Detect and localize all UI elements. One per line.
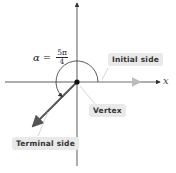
initial-side-label: Initial side: [108, 53, 163, 66]
x-axis-label: x: [163, 75, 169, 86]
equals-sign: =: [43, 52, 51, 63]
terminal-side-label: Terminal side: [12, 137, 79, 150]
alpha-symbol: α: [33, 52, 40, 63]
angle-fraction: 5π 4: [56, 49, 68, 66]
vertex-label: Vertex: [89, 104, 126, 117]
initial-side-leader: [102, 68, 108, 80]
fraction-denominator: 4: [60, 58, 65, 66]
vertex-dot: [74, 79, 79, 84]
terminal-side-ray: [33, 82, 77, 126]
vertex-leader: [80, 86, 95, 104]
angle-formula: α = 5π 4: [33, 49, 68, 66]
